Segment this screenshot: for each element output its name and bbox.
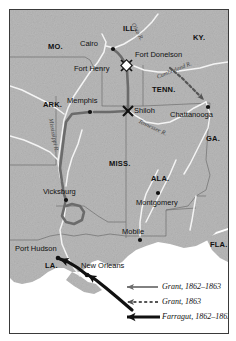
city-dot-chattanooga [206, 105, 210, 109]
city-dot-vicksburg [64, 198, 68, 202]
city-dot-new-orleans [85, 273, 90, 278]
legend-label-grant-1862-1863: Grant, 1862–1863 [162, 282, 221, 291]
legend-label-farragut: Farragut, 1862–1863 [162, 312, 229, 321]
campaign-map: MO. ILL. KY. TENN. ARK. MISS. ALA. GA. L… [0, 0, 236, 341]
city-dot-port-hudson [56, 256, 61, 261]
city-dot-memphis [88, 110, 92, 114]
city-dot-montgomery [156, 191, 160, 195]
map-frame: MO. ILL. KY. TENN. ARK. MISS. ALA. GA. L… [9, 9, 229, 334]
legend-label-grant-1863: Grant, 1863 [162, 297, 201, 306]
city-dot-cairo [111, 47, 115, 51]
city-dot-mobile [138, 238, 142, 242]
